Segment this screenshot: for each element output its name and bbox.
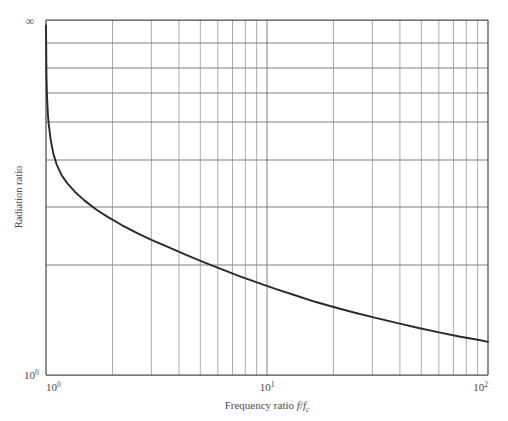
y-tick-ten-zero: 100 xyxy=(24,368,39,381)
chart-figure: ∞ 100 100 101 102 Frequency ratio f/fc R… xyxy=(0,0,508,421)
x-tick-ten-one: 101 xyxy=(260,380,275,393)
x-tick-ten-two: 102 xyxy=(473,380,488,393)
y-axis-ticks: ∞ 100 xyxy=(24,14,39,381)
y-tick-infinity: ∞ xyxy=(26,14,35,28)
x-axis-title: Frequency ratio f/fc xyxy=(225,399,310,414)
x-axis-ticks: 100 101 102 xyxy=(46,380,488,393)
x-tick-ten-zero: 100 xyxy=(46,380,61,393)
radiation-ratio-chart: ∞ 100 100 101 102 Frequency ratio f/fc R… xyxy=(0,0,508,421)
y-axis-title: Radiation ratio xyxy=(13,166,24,229)
